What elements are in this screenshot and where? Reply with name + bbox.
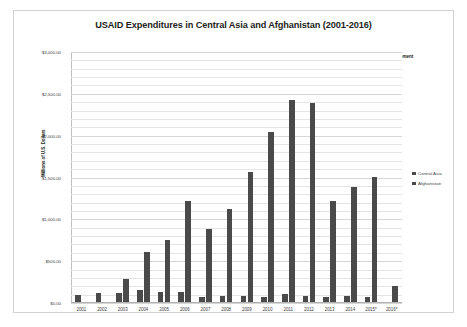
x-axis-tick-label: 2007 <box>195 307 216 312</box>
x-axis-tick-label: 2014 <box>340 307 361 312</box>
bar-afghanistan-2009 <box>248 172 254 303</box>
bar-afghanistan-2006 <box>185 201 191 303</box>
x-axis-tick-label: 2011 <box>278 307 299 312</box>
bar-afghanistan-2012 <box>310 103 316 303</box>
x-axis-tick-label: 2006 <box>174 307 195 312</box>
bar-group <box>220 52 241 303</box>
x-axis-tick-label: 2015* <box>361 307 382 312</box>
y-axis-tick-label: $3,000.00 <box>42 50 61 55</box>
bar-group <box>158 52 179 303</box>
x-axis-tick-label: 2005 <box>154 307 175 312</box>
x-axis-tick-label: 2001 <box>71 307 92 312</box>
bar-group <box>385 52 406 303</box>
plot-area <box>71 52 402 303</box>
x-axis-tick-label: 2003 <box>112 307 133 312</box>
bar-group <box>75 52 96 303</box>
bar-afghanistan-2011 <box>289 100 295 303</box>
bar-afghanistan-2015 <box>372 177 378 303</box>
bar-group <box>241 52 262 303</box>
bar-group <box>96 52 117 303</box>
gridline-major <box>71 303 402 304</box>
x-axis-tick-label: 2009 <box>237 307 258 312</box>
bar-afghanistan-2003 <box>123 279 129 303</box>
bar-afghanistan-2016 <box>392 286 398 303</box>
bar-afghanistan-2007 <box>206 229 212 303</box>
x-axis-tick-label: 2008 <box>216 307 237 312</box>
bar-group <box>282 52 303 303</box>
legend-swatch-icon <box>412 182 416 186</box>
legend-item: Afghanistan <box>412 181 442 186</box>
bar-group <box>137 52 158 303</box>
bar-group <box>344 52 365 303</box>
y-axis-tick-label: $2,500.00 <box>42 91 61 96</box>
y-axis-tick-label: $1,500.00 <box>42 175 61 180</box>
bar-group <box>261 52 282 303</box>
y-axis-tick-label: $2,000.00 <box>42 133 61 138</box>
bar-group <box>178 52 199 303</box>
bar-group <box>199 52 220 303</box>
bar-afghanistan-2013 <box>330 201 336 303</box>
x-axis-tick-label: 2010 <box>257 307 278 312</box>
x-axis-tick-label: 2016* <box>381 307 402 312</box>
legend-label: Afghanistan <box>418 181 441 186</box>
chart-legend: Central AsiaAfghanistan <box>412 171 442 191</box>
bar-group <box>303 52 324 303</box>
y-axis-tick-label: $500.00 <box>45 259 61 264</box>
bar-group <box>365 52 386 303</box>
bar-afghanistan-2005 <box>165 240 171 303</box>
x-axis-tick-label: 2012 <box>299 307 320 312</box>
bar-afghanistan-2014 <box>351 187 357 303</box>
legend-item: Central Asia <box>412 171 442 176</box>
chart-frame: USAID Expenditures in Central Asia and A… <box>13 10 454 313</box>
y-axis-tick-label: $1,000.00 <box>42 217 61 222</box>
x-axis-line <box>71 302 402 303</box>
bar-group <box>323 52 344 303</box>
bar-afghanistan-2010 <box>268 132 274 303</box>
x-axis-tick-label: 2013 <box>319 307 340 312</box>
chart-title: USAID Expenditures in Central Asia and A… <box>14 20 453 30</box>
x-axis-tick-label: 2004 <box>133 307 154 312</box>
bar-afghanistan-2004 <box>144 252 150 303</box>
legend-swatch-icon <box>412 172 416 176</box>
y-axis-tick-label: $0.00 <box>50 301 61 306</box>
legend-label: Central Asia <box>418 171 442 176</box>
bar-group <box>116 52 137 303</box>
bar-afghanistan-2008 <box>227 209 233 303</box>
x-axis-tick-label: 2002 <box>92 307 113 312</box>
